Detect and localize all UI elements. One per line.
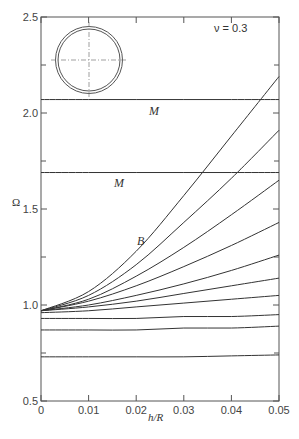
curve-curve-6 <box>41 278 279 311</box>
x-tick-label: 0.01 <box>78 404 99 416</box>
x-tick-label: 0 <box>38 404 44 416</box>
curve-curve-8 <box>41 315 279 319</box>
label-m-lower: M <box>113 176 125 190</box>
x-axis-label: h/R <box>148 411 164 423</box>
label-b: B <box>137 234 145 248</box>
curve-curve-10 <box>41 355 279 357</box>
x-tick-label: 0.03 <box>173 404 194 416</box>
y-tick-label: 1.5 <box>23 203 38 215</box>
chart: 00.010.020.030.040.050.51.01.52.02.5 ν =… <box>0 0 299 439</box>
y-tick-label: 0.5 <box>23 395 38 407</box>
x-tick-label: 0.05 <box>268 404 289 416</box>
curve-B <box>41 77 279 311</box>
plot-frame <box>41 17 279 401</box>
y-tick-label: 2.5 <box>23 11 38 23</box>
y-tick-label: 2.0 <box>23 107 38 119</box>
ring-cross-section-icon <box>51 22 127 98</box>
curves <box>41 77 279 357</box>
y-tick-label: 1.0 <box>23 299 38 311</box>
label-m-upper: M <box>148 104 160 118</box>
x-tick-label: 0.02 <box>125 404 146 416</box>
curve-curve-9 <box>41 326 279 330</box>
curve-curve-3 <box>41 180 279 311</box>
x-tick-label: 0.04 <box>221 404 242 416</box>
axis-ticks <box>41 17 279 401</box>
poisson-ratio-annotation: ν = 0.3 <box>214 22 247 34</box>
y-axis-label: Ω <box>12 196 20 208</box>
